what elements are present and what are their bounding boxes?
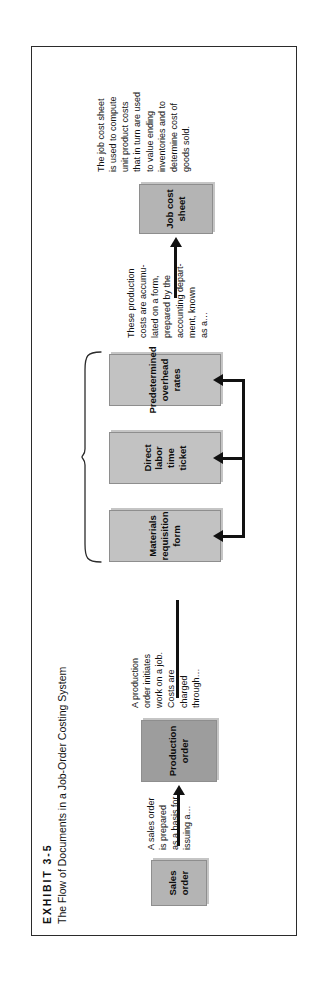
note-sales-line-4: issuing a… [181, 796, 193, 850]
exhibit-page-frame: EXHIBIT 3-5 The Flow of Documents in a J… [31, 46, 297, 936]
note-accumulate-line-1: These production [125, 263, 137, 338]
box-job-cost-sheet[interactable]: Job cost sheet [139, 184, 213, 234]
note-sales-line-2: is prepared [157, 796, 169, 850]
note-production-order: A production order initiates work on a j… [129, 652, 202, 708]
note-cost-accumulation: These production costs are accumu- lated… [125, 263, 210, 338]
exhibit-subtitle: The Flow of Documents in a Job-Order Cos… [56, 594, 69, 924]
note-jobcost-line-7: determine cost of [168, 92, 180, 172]
box-direct-labor-time-ticket[interactable]: Direct labor time ticket [109, 432, 221, 484]
box-labor-line-2: time ticket [165, 435, 188, 481]
note-accumulate-line-4: prepared by the [161, 263, 173, 338]
box-predetermined-overhead-rates[interactable]: Predetermined overhead rates [109, 354, 221, 406]
note-accumulate-line-7: as a… [198, 263, 210, 338]
note-production-line-2: order initiates [141, 652, 153, 708]
brace-source-documents [81, 350, 103, 564]
note-job-cost-sheet: The job cost sheet is used to compute un… [95, 92, 192, 172]
box-materials-line-3: form [171, 511, 183, 560]
box-sales-order-line-2: order [179, 870, 191, 895]
note-production-line-5: charged [178, 652, 190, 708]
box-sales-order-line-1: Sales [167, 870, 179, 895]
exhibit-caption: EXHIBIT 3-5 The Flow of Documents in a J… [41, 594, 69, 924]
box-materials-line-2: requisition [159, 511, 171, 560]
exhibit-label: EXHIBIT 3-5 [41, 594, 54, 924]
note-accumulate-line-5: accounting depart- [174, 263, 186, 338]
note-production-line-6: through… [190, 652, 202, 708]
box-labor-line-1: Direct labor [142, 435, 165, 481]
box-production-order[interactable]: Production order [141, 720, 217, 782]
note-jobcost-line-5: to value ending [144, 92, 156, 172]
note-sales-line-1: A sales order [145, 796, 157, 850]
note-jobcost-line-2: is used to compute [107, 92, 119, 172]
note-sales-line-3: as a basis for [169, 796, 181, 850]
note-accumulate-line-3: lated on a form, [149, 263, 161, 338]
box-sales-order[interactable]: Sales order [151, 860, 207, 906]
note-jobcost-line-4: that in turn are used [131, 92, 143, 172]
box-production-order-line-1: Production [167, 726, 179, 777]
note-accumulate-line-6: ment, known [186, 263, 198, 338]
box-job-cost-sheet-line-1: Job cost [164, 189, 176, 228]
note-production-line-3: work on a job. [153, 652, 165, 708]
diagram-canvas: EXHIBIT 3-5 The Flow of Documents in a J… [33, 48, 295, 934]
box-overhead-line-3: rates [171, 346, 183, 413]
note-jobcost-line-3: unit product costs [119, 92, 131, 172]
box-overhead-line-1: Predetermined [147, 346, 159, 413]
note-sales-order: A sales order is prepared as a basis for… [145, 796, 194, 850]
box-overhead-line-2: overhead [159, 346, 171, 413]
box-materials-line-1: Materials [147, 511, 159, 560]
note-jobcost-line-6: inventories and to [156, 92, 168, 172]
rotated-diagram-wrapper: EXHIBIT 3-5 The Flow of Documents in a J… [33, 48, 295, 934]
box-materials-requisition-form[interactable]: Materials requisition form [109, 510, 221, 562]
box-production-order-line-2: order [179, 726, 191, 777]
note-production-line-4: Costs are [165, 652, 177, 708]
note-jobcost-line-8: goods sold. [180, 92, 192, 172]
connector-distribution-rail [242, 379, 245, 538]
note-accumulate-line-2: costs are accumu- [137, 263, 149, 338]
box-job-cost-sheet-line-2: sheet [176, 189, 188, 228]
note-production-line-1: A production [129, 652, 141, 708]
note-jobcost-line-1: The job cost sheet [95, 92, 107, 172]
